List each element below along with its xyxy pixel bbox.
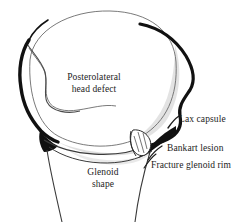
label-glenoid-shape: Glenoid shape — [71, 167, 135, 190]
scapular-neck-left — [47, 150, 62, 222]
label-bankart-lesion: Bankart lesion — [167, 143, 224, 155]
lax-capsule-right — [140, 24, 193, 146]
label-lax-capsule: Lax capsule — [179, 114, 226, 126]
label-glenoid-line1: Glenoid — [87, 167, 118, 177]
label-posterolateral-line2: head defect — [72, 84, 117, 94]
label-posterolateral-head-defect: Posterolateral head defect — [52, 72, 136, 95]
label-fracture-glenoid-rim: Fracture glenoid rim — [151, 160, 231, 172]
label-posterolateral-line1: Posterolateral — [67, 72, 121, 82]
shoulder-instability-figure: Posterolateral head defect Lax capsule B… — [0, 0, 251, 222]
capsule-upper-left-taper — [29, 20, 48, 40]
label-glenoid-line2: shape — [92, 179, 114, 189]
leader-line-lax-capsule — [168, 116, 179, 128]
